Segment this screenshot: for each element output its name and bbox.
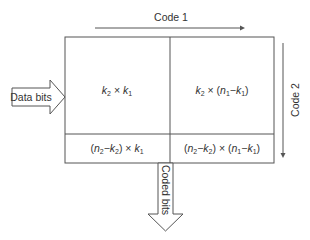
- data-bits-label: Data bits: [10, 91, 51, 103]
- cell-row-parity: k2 × (n1−k1): [195, 84, 248, 97]
- code2-arrow-icon: [281, 43, 286, 158]
- product-code-diagram: Code 1 k2 × k1 k2 × (n1−k1) (n2−k2) × k1…: [0, 0, 310, 240]
- code1-arrow-icon: [95, 26, 245, 31]
- cell-parity-on-parity: (n2−k2) × (n1−k1): [184, 142, 260, 155]
- code2-label: Code 2: [289, 83, 301, 117]
- cell-column-parity: (n2−k2) × k1: [90, 142, 143, 155]
- cell-data-block: k2 × k1: [102, 84, 132, 97]
- code1-label: Code 1: [154, 11, 188, 23]
- coded-bits-label: Coded bits: [160, 165, 172, 215]
